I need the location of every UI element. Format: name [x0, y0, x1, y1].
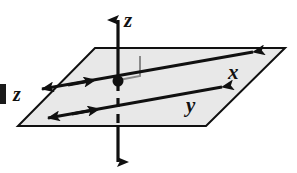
- z-axis-label: z: [124, 10, 132, 31]
- x-axis-label: x: [228, 62, 239, 83]
- y-axis-label: y: [186, 95, 195, 116]
- axes-diagram: [0, 0, 297, 173]
- geometry-figure: z z x y: [0, 0, 297, 173]
- margin-z-label: z: [13, 84, 21, 104]
- cropped-text-glyph: [0, 84, 6, 104]
- origin-point: [113, 76, 124, 87]
